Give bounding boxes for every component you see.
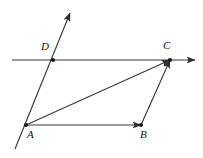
segments-group [12, 13, 195, 149]
dot-A [24, 123, 28, 127]
vector-BC [141, 60, 170, 125]
dot-C [168, 58, 172, 62]
ray-through-D [15, 13, 70, 149]
dot-D [51, 58, 55, 62]
vertex-label-b: B [140, 129, 147, 140]
dot-B [139, 123, 143, 127]
vertex-label-d: D [41, 41, 49, 52]
geometry-diagram: A B C D [0, 0, 203, 158]
vertex-label-c: C [163, 40, 170, 51]
vertex-label-a: A [27, 129, 34, 140]
